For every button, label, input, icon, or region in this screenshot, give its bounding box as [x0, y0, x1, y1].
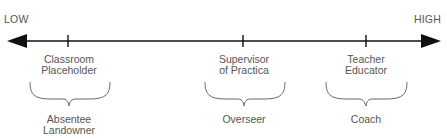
point-label-supervisor-of-practica: Supervisor of Practica	[189, 54, 299, 76]
role-label-absentee-landowner: Absentee Landowner	[14, 114, 124, 136]
point-label-teacher-educator: Teacher Educator	[311, 54, 421, 76]
continuum-diagram: LOW HIGH Classroom Placeholder Superviso…	[0, 0, 447, 140]
brace-icon-supervisor-of-practica	[205, 82, 285, 106]
low-end-label: LOW	[4, 13, 29, 25]
role-label-line: Overseer	[189, 114, 299, 125]
role-label-coach: Coach	[311, 114, 421, 125]
left-arrowhead-icon	[7, 34, 27, 48]
brace-icon-teacher-educator	[326, 82, 407, 106]
role-label-line: Coach	[311, 114, 421, 125]
right-arrowhead-icon	[421, 34, 441, 48]
point-label-classroom-placeholder: Classroom Placeholder	[14, 54, 124, 76]
point-label-line: Placeholder	[14, 65, 124, 76]
point-label-line: Educator	[311, 65, 421, 76]
brace-icon-classroom-placeholder	[30, 82, 110, 106]
high-end-label: HIGH	[414, 13, 441, 25]
point-label-line: of Practica	[189, 65, 299, 76]
role-label-overseer: Overseer	[189, 114, 299, 125]
role-label-line: Landowner	[14, 125, 124, 136]
